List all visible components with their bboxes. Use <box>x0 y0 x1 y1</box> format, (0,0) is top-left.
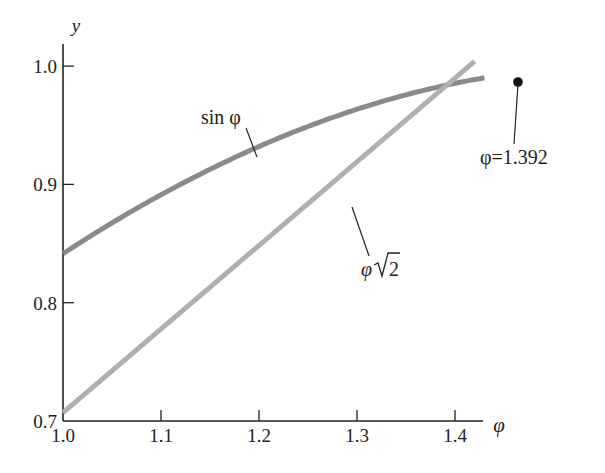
y-tick-label: 0.8 <box>33 293 57 314</box>
root2-label-leader <box>352 207 369 256</box>
y-axis-label: y <box>70 15 81 36</box>
sin-phi-label: sin φ <box>201 106 241 129</box>
series-lines <box>63 61 484 412</box>
intersection-leader <box>514 84 518 144</box>
x-axis-label: φ <box>493 413 505 437</box>
x-tick-label: 1.4 <box>443 425 467 446</box>
sin-phi-vs-phi-root2-chart: 0.70.80.91.0 1.01.11.21.31.4 y φ sin φ φ… <box>0 0 605 473</box>
phi-root2-line <box>63 61 475 412</box>
phi-root2-label: φ 2 <box>361 253 400 281</box>
phi-root2-label-phi: φ <box>361 258 372 281</box>
x-tick-label: 1.2 <box>247 425 271 446</box>
x-tick-label: 1.3 <box>345 425 369 446</box>
phi-root2-label-radicand: 2 <box>389 258 399 280</box>
y-ticks: 0.70.80.91.0 <box>33 56 74 432</box>
y-tick-label: 0.9 <box>33 174 57 195</box>
x-tick-label: 1.0 <box>51 425 75 446</box>
x-ticks: 1.01.11.21.31.4 <box>51 410 467 446</box>
x-tick-label: 1.1 <box>149 425 173 446</box>
intersection-label: φ=1.392 <box>480 146 548 169</box>
y-tick-label: 1.0 <box>33 56 57 77</box>
